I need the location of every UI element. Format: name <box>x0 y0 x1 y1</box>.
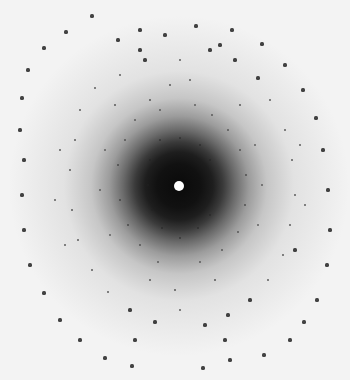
diffraction-spot <box>119 199 121 201</box>
diffraction-spot <box>157 261 159 263</box>
diffraction-spot <box>42 291 45 294</box>
diffraction-spot <box>159 109 161 111</box>
diffraction-spot <box>254 144 256 146</box>
diffraction-spot <box>213 189 215 191</box>
diffraction-spot <box>28 263 31 266</box>
diffraction-spot <box>22 228 25 231</box>
diffraction-spot <box>293 248 296 251</box>
diffraction-spot <box>199 261 201 263</box>
diffraction-spot <box>237 231 239 233</box>
diffraction-spot <box>127 224 129 226</box>
diffraction-spot <box>163 33 166 36</box>
diffraction-spot <box>194 24 197 27</box>
diffraction-spot <box>149 159 151 161</box>
diffraction-spot <box>117 164 119 166</box>
diffraction-spot <box>194 104 196 106</box>
diffraction-spot <box>20 96 23 99</box>
diffraction-spot <box>179 237 181 239</box>
diffraction-spot <box>314 116 317 119</box>
diffraction-spot <box>209 159 211 161</box>
diffraction-spot <box>26 68 29 71</box>
diffraction-spot <box>116 38 119 41</box>
diffraction-spot <box>153 320 156 323</box>
diffraction-spot <box>64 30 67 33</box>
diffraction-spot <box>221 249 223 251</box>
diffraction-spot <box>179 137 181 139</box>
diffraction-spot <box>124 139 126 141</box>
diffraction-spot <box>248 298 251 301</box>
diffraction-spot <box>199 144 201 146</box>
diffraction-spot <box>161 227 163 229</box>
diffraction-spot <box>226 313 229 316</box>
diffraction-spot <box>228 358 231 361</box>
diffraction-spot <box>139 244 141 246</box>
diffraction-spot <box>78 338 81 341</box>
diffraction-spot <box>230 28 233 31</box>
diffraction-spot <box>288 338 291 341</box>
diffraction-spot <box>104 149 106 151</box>
diffraction-spot <box>227 129 229 131</box>
diffraction-spot <box>147 184 149 186</box>
diffraction-spot <box>133 338 136 341</box>
diffraction-spot <box>256 76 259 79</box>
diffraction-spot <box>321 148 324 151</box>
diffraction-spot <box>90 14 93 17</box>
diffraction-spot <box>244 204 246 206</box>
diffraction-spot <box>315 298 318 301</box>
diffraction-spot <box>257 224 259 226</box>
diffraction-spot <box>58 318 61 321</box>
diffraction-spot <box>159 139 161 141</box>
diffraction-spot <box>261 184 263 186</box>
diffraction-spot <box>283 63 286 66</box>
diffraction-spot <box>130 364 133 367</box>
diffraction-spot <box>203 323 206 326</box>
diffraction-spot <box>239 149 241 151</box>
diffraction-spot <box>208 48 211 51</box>
diffraction-spot <box>223 338 226 341</box>
diffraction-spot <box>22 158 25 161</box>
diffraction-spot <box>328 228 331 231</box>
diffraction-spot <box>245 174 247 176</box>
diffraction-spot <box>151 209 153 211</box>
diffraction-spot <box>143 58 146 61</box>
diffraction-spot <box>138 48 141 51</box>
diffraction-spot <box>42 46 45 49</box>
diffraction-spot <box>20 193 23 196</box>
diffraction-spot <box>109 234 111 236</box>
diffraction-spot <box>197 227 199 229</box>
diffraction-image <box>0 0 350 380</box>
diffraction-spot <box>218 43 221 46</box>
diffraction-spot <box>128 308 131 311</box>
diffraction-spot <box>138 28 141 31</box>
diffraction-spot <box>325 263 328 266</box>
diffraction-spot <box>262 353 265 356</box>
diffraction-spot <box>260 42 263 45</box>
diffraction-spot <box>209 214 211 216</box>
diffraction-spot <box>201 366 204 369</box>
diffraction-spot <box>233 58 236 61</box>
diffraction-spot <box>326 188 329 191</box>
diffraction-spot <box>211 114 213 116</box>
diffraction-spot <box>134 119 136 121</box>
beam-center-spot <box>174 181 184 191</box>
diffraction-spot <box>103 356 106 359</box>
diffraction-spot <box>18 128 21 131</box>
diffraction-spot <box>301 88 304 91</box>
diffraction-spot <box>99 189 101 191</box>
diffraction-spot <box>302 320 305 323</box>
